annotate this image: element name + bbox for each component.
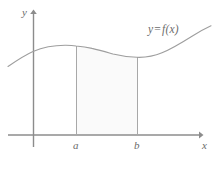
y-axis-arrowhead xyxy=(30,10,37,15)
area-under-curve-figure: y x a b y=f(x) xyxy=(0,0,216,169)
upper-bound-label-b: b xyxy=(134,140,140,151)
x-axis-label: x xyxy=(202,140,207,151)
y-axis-label: y xyxy=(22,7,27,18)
function-label-operator: = xyxy=(153,23,162,35)
figure-canvas xyxy=(0,0,216,169)
lower-bound-label-a: a xyxy=(73,140,79,151)
x-axis-arrowhead xyxy=(199,132,204,139)
shaded-area-under-curve xyxy=(76,46,137,135)
function-label-rhs: f(x) xyxy=(162,23,179,35)
function-equation-label: y=f(x) xyxy=(148,24,179,36)
